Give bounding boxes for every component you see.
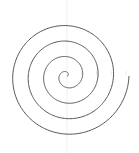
radial-ticks <box>82 71 126 75</box>
polar-plot <box>0 0 139 153</box>
spiral-line <box>13 26 129 135</box>
